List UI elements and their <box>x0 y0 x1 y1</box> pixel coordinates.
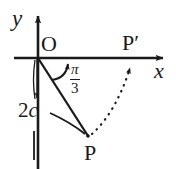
angle-arc-pi-over-3 <box>52 64 68 80</box>
x-axis-label: x <box>154 60 164 82</box>
measure-arrow-2c <box>34 58 38 99</box>
point-label-p: P <box>84 142 96 164</box>
y-axis-label: y <box>12 7 22 30</box>
point-P-marker <box>86 134 90 138</box>
length-label-2c: 2c <box>18 100 38 121</box>
origin-label: O <box>41 33 57 55</box>
length-label-2c-variable: c <box>29 98 38 122</box>
point-label-p-prime: P′ <box>122 32 139 54</box>
length-label-2c-prefix: 2 <box>18 98 29 122</box>
segment-OP <box>38 58 88 136</box>
angle-label-numerator: π <box>70 62 80 78</box>
angle-label-denominator: 3 <box>70 81 80 97</box>
dotted-rotation-path <box>92 68 130 134</box>
angle-label-pi-over-3: π 3 <box>70 62 80 97</box>
geometry-figure: y x O P′ P 2c π 3 <box>0 0 176 169</box>
